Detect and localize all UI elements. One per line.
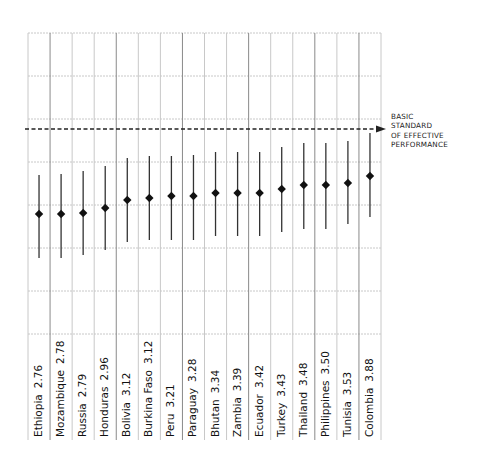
- category-label-tunisia: Tunisia3.53: [341, 372, 353, 437]
- category-label-mozambique: Mozambique2.78: [54, 341, 66, 437]
- category-label-turkey: Turkey3.43: [275, 373, 287, 437]
- category-label-zambia: Zambia3.39: [231, 368, 243, 437]
- category-label-thailand: Thailand3.48: [297, 363, 309, 437]
- annotation-line-2: STANDARD: [391, 121, 448, 130]
- annotation-line-4: PERFORMANCE: [391, 140, 448, 149]
- category-name: Paraguay: [186, 388, 198, 437]
- category-value: 3.48: [297, 363, 309, 386]
- reference-line: [25, 126, 386, 133]
- category-label-bolivia: Bolivia3.12: [120, 373, 132, 437]
- category-name: Bhutan: [209, 399, 221, 437]
- category-label-peru: Peru3.21: [164, 384, 176, 437]
- category-name: Burkina Faso: [142, 370, 154, 437]
- category-value: 2.96: [98, 357, 110, 380]
- category-value: 2.76: [32, 365, 44, 388]
- category-name: Russia: [76, 403, 88, 437]
- category-value: 2.78: [54, 341, 66, 364]
- category-name: Honduras: [98, 386, 110, 437]
- category-name: Turkey: [275, 403, 287, 437]
- category-value: 3.42: [253, 365, 265, 388]
- category-label-honduras: Honduras2.96: [98, 357, 110, 437]
- category-label-bhutan: Bhutan3.34: [209, 370, 221, 437]
- category-label-ecuador: Ecuador3.42: [253, 365, 265, 437]
- annotation-line-1: BASIC: [391, 112, 448, 121]
- category-value: 3.39: [231, 368, 243, 391]
- category-value: 3.12: [120, 373, 132, 396]
- reference-line-annotation: BASIC STANDARD OF EFFECTIVE PERFORMANCE: [391, 112, 448, 150]
- category-value: 3.43: [275, 373, 287, 396]
- category-name: Zambia: [231, 397, 243, 437]
- category-label-colombia: Colombia3.88: [363, 358, 375, 437]
- category-name: Colombia: [363, 388, 375, 437]
- category-label-russia: Russia2.79: [76, 374, 88, 437]
- category-name: Peru: [164, 414, 176, 437]
- category-name: Philippines: [319, 380, 331, 437]
- category-value: 3.28: [186, 359, 198, 382]
- category-value: 3.34: [209, 370, 221, 393]
- category-name: Bolivia: [120, 402, 132, 437]
- category-value: 3.88: [363, 358, 375, 381]
- category-value: 3.12: [142, 341, 154, 364]
- category-name: Tunisia: [341, 401, 353, 437]
- category-name: Ethiopia: [32, 394, 44, 437]
- category-label-philippines: Philippines3.50: [319, 351, 331, 437]
- category-name: Mozambique: [54, 370, 66, 437]
- category-label-burkina-faso: Burkina Faso3.12: [142, 341, 154, 437]
- category-name: Thailand: [297, 392, 309, 437]
- category-label-paraguay: Paraguay3.28: [186, 359, 198, 437]
- category-name: Ecuador: [253, 394, 265, 437]
- category-value: 3.50: [319, 351, 331, 374]
- annotation-line-3: OF EFFECTIVE: [391, 131, 448, 140]
- category-label-ethiopia: Ethiopia2.76: [32, 365, 44, 437]
- category-value: 2.79: [76, 374, 88, 397]
- category-value: 3.21: [164, 384, 176, 407]
- category-value: 3.53: [341, 372, 353, 395]
